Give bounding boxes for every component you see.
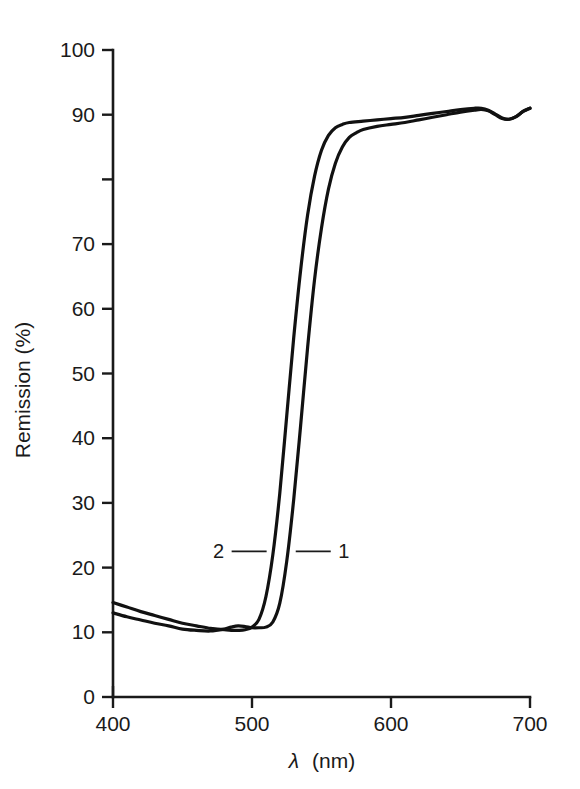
x-axis-tick-label: 600 xyxy=(373,712,408,735)
y-axis-tick-label: 90 xyxy=(72,103,95,126)
y-axis-tick-label: 30 xyxy=(72,491,95,514)
curve-label-2: 2 xyxy=(213,540,224,562)
data-curves xyxy=(113,108,530,631)
x-axis-tick-label: 400 xyxy=(95,712,130,735)
remission-spectrum-figure: 01020304050607090100 400500600700 12 Rem… xyxy=(0,0,580,789)
curve-label-1: 1 xyxy=(338,540,349,562)
y-axis-tick-label: 10 xyxy=(72,620,95,643)
y-axis-tick-label: 100 xyxy=(60,38,95,61)
x-axis-title: λ (nm) xyxy=(288,749,355,772)
y-axis-title: Remission (%) xyxy=(11,322,34,459)
curve-annotations: 12 xyxy=(213,540,349,562)
x-axis-tick-label: 500 xyxy=(234,712,269,735)
y-axis-ticks: 01020304050607090100 xyxy=(60,38,113,708)
x-axis-symbol: λ xyxy=(288,749,299,772)
y-axis-tick-label: 0 xyxy=(83,685,95,708)
x-axis-tick-label: 700 xyxy=(512,712,547,735)
x-axis-unit: (nm) xyxy=(312,749,355,772)
y-axis-tick-label: 60 xyxy=(72,297,95,320)
curve-1 xyxy=(113,108,530,631)
y-axis-tick-label: 40 xyxy=(72,426,95,449)
y-axis-tick-label: 50 xyxy=(72,362,95,385)
y-axis-tick-label: 70 xyxy=(72,232,95,255)
chart-canvas: 01020304050607090100 400500600700 12 Rem… xyxy=(0,0,580,789)
x-axis-ticks: 400500600700 xyxy=(95,686,547,735)
y-axis-tick-label: 20 xyxy=(72,556,95,579)
